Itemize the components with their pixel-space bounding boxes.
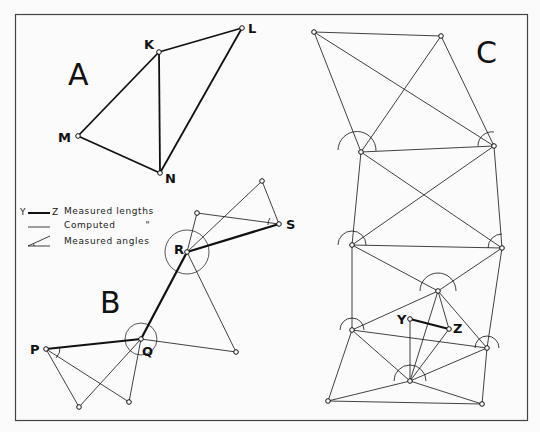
legend-measured-angles: Measured angles	[64, 236, 149, 246]
panel-c-label: C	[476, 38, 497, 68]
legend: YZMeasured lengths Computed" Measured an…	[20, 204, 154, 248]
point-z-label: Z	[453, 322, 462, 335]
point-m-label: M	[58, 131, 71, 144]
point-n-label: N	[165, 172, 176, 185]
panel-b-label: B	[100, 288, 121, 318]
point-y-label: Y	[397, 313, 406, 326]
legend-computed: Computed	[64, 220, 116, 230]
point-s-label: S	[286, 218, 295, 231]
legend-z: Z	[52, 207, 59, 217]
panel-a-label: A	[68, 60, 89, 90]
point-k-label: K	[144, 38, 154, 51]
legend-y: Y	[20, 207, 26, 217]
point-l-label: L	[248, 22, 256, 35]
point-r-label: R	[174, 243, 184, 256]
point-q-label: Q	[142, 345, 153, 358]
panel-c-network	[314, 32, 502, 404]
legend-measured-lengths: Measured lengths	[64, 206, 154, 216]
point-p-label: P	[30, 343, 40, 356]
legend-ditto: "	[146, 220, 151, 230]
